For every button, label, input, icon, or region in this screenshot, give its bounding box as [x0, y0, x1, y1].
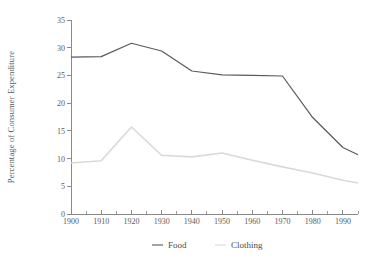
x-axis-tick-label: 1900 — [63, 217, 79, 226]
line-chart: 0510152025303519001910192019301940195019… — [0, 0, 378, 263]
series-line-food — [71, 43, 358, 154]
x-axis-tick-label: 1930 — [154, 217, 170, 226]
x-axis-tick-label: 1960 — [244, 217, 260, 226]
x-axis-tick-label: 1940 — [184, 217, 200, 226]
y-axis-tick-label: 25 — [57, 71, 65, 80]
y-axis-tick-label: 30 — [57, 44, 65, 53]
legend-label-clothing: Clothing — [231, 240, 263, 250]
x-axis-tick-label: 1980 — [305, 217, 321, 226]
x-axis-tick-label: 1950 — [214, 217, 230, 226]
x-axis-tick-label: 1990 — [335, 217, 351, 226]
series-line-clothing — [71, 127, 358, 183]
y-axis-tick-label: 15 — [57, 127, 65, 136]
x-axis-tick-label: 1920 — [123, 217, 139, 226]
x-axis-tick-label: 1970 — [274, 217, 290, 226]
legend-label-food: Food — [168, 240, 187, 250]
y-axis-title: Percentage of Consumer Expenditure — [6, 51, 16, 183]
x-axis-tick-label: 1910 — [93, 217, 109, 226]
y-axis-tick-label: 35 — [57, 16, 65, 25]
chart-canvas: 0510152025303519001910192019301940195019… — [0, 0, 378, 263]
y-axis-tick-label: 10 — [57, 155, 65, 164]
y-axis-tick-label: 5 — [61, 182, 65, 191]
y-axis-tick-label: 20 — [57, 99, 65, 108]
